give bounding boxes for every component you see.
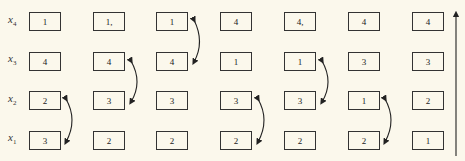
swap-arrows bbox=[0, 0, 465, 161]
swap-arrow-3-icon bbox=[194, 20, 200, 62]
swap-arrow-6-icon bbox=[385, 99, 391, 142]
swap-arrow-2-icon bbox=[131, 61, 137, 102]
swap-arrow-1-icon bbox=[66, 99, 72, 142]
swap-arrow-5-icon bbox=[322, 61, 328, 102]
swap-arrow-4-icon bbox=[258, 99, 264, 142]
